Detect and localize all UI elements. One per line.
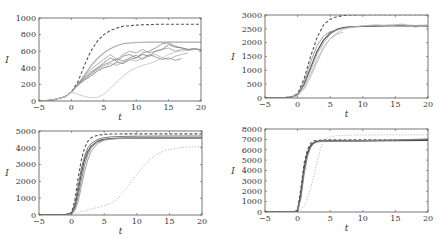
- panel-bottom-right: −505101520010002000300040005000600070008…: [230, 125, 433, 233]
- series-deterministic-dashed: [265, 140, 428, 212]
- y-tick-label: 4000: [16, 144, 36, 153]
- y-tick-label: 1500: [242, 52, 262, 61]
- panel-bottom-left: −505101520010002000300040005000tI: [4, 127, 207, 236]
- x-tick-label: 10: [132, 217, 142, 226]
- x-tick-label: 10: [358, 100, 368, 109]
- series-group: [39, 134, 202, 215]
- y-tick-label: 1000: [242, 197, 262, 206]
- series-ensemble-main: [265, 26, 428, 98]
- x-tick-label: 5: [328, 214, 333, 223]
- x-tick-label: 20: [197, 217, 207, 226]
- y-tick-label: 2000: [16, 177, 36, 186]
- y-axis-label: I: [230, 166, 235, 176]
- y-tick-label: 800: [21, 30, 36, 39]
- series-group: [265, 135, 428, 212]
- y-tick-label: 0: [31, 211, 36, 220]
- x-axis-label: t: [345, 109, 349, 119]
- y-tick-label: 3000: [242, 11, 262, 20]
- y-tick-label: 2500: [242, 25, 262, 34]
- x-tick-label: 5: [101, 103, 106, 112]
- series-sim-late: [39, 50, 188, 101]
- x-tick-label: 15: [390, 214, 400, 223]
- y-axis-label: I: [4, 55, 9, 65]
- panel-top-right: −505101520050010001500200025003000tI: [230, 11, 433, 119]
- series-sim-3: [39, 138, 202, 215]
- y-tick-label: 7000: [242, 135, 262, 144]
- series-sim-2: [265, 32, 343, 98]
- series-sim-5: [39, 55, 182, 102]
- y-tick-label: 400: [21, 64, 36, 73]
- x-tick-label: 0: [295, 214, 300, 223]
- y-tick-label: 6000: [242, 146, 262, 155]
- y-tick-label: 200: [21, 80, 36, 89]
- x-tick-label: 0: [295, 100, 300, 109]
- series-sim-3: [265, 139, 428, 212]
- y-tick-label: 500: [247, 80, 262, 89]
- x-tick-label: 15: [164, 217, 174, 226]
- series-sim-1: [265, 25, 428, 98]
- series-slow-dotted: [265, 135, 428, 212]
- y-tick-label: 1000: [16, 194, 36, 203]
- x-tick-label: 20: [423, 214, 433, 223]
- x-axis-label: t: [118, 112, 122, 122]
- series-deterministic-dashed: [39, 134, 202, 215]
- y-tick-label: 5000: [16, 127, 36, 136]
- x-tick-label: 10: [131, 103, 141, 112]
- y-axis-label: I: [230, 52, 235, 62]
- x-tick-label: 0: [69, 217, 74, 226]
- series-sim-2: [265, 139, 428, 212]
- y-tick-label: 2000: [242, 187, 262, 196]
- x-axis-label: t: [345, 223, 349, 233]
- y-tick-label: 3000: [16, 160, 36, 169]
- x-tick-label: 20: [423, 100, 433, 109]
- x-tick-label: 15: [390, 100, 400, 109]
- y-tick-label: 2000: [242, 38, 262, 47]
- y-tick-label: 0: [257, 208, 262, 217]
- y-tick-label: 8000: [242, 125, 262, 134]
- x-tick-label: 0: [69, 103, 74, 112]
- x-tick-label: 5: [328, 100, 333, 109]
- series-sim-1: [39, 138, 202, 215]
- x-tick-label: 10: [358, 214, 368, 223]
- series-sim-3: [265, 24, 428, 98]
- panel-top-left: −50510152002004006008001000tI: [4, 14, 206, 122]
- y-tick-label: 0: [31, 97, 36, 106]
- series-sim-1: [39, 45, 201, 101]
- figure: −50510152002004006008001000tI −505101520…: [0, 0, 439, 246]
- series-group: [39, 24, 201, 101]
- y-tick-label: 600: [21, 47, 36, 56]
- y-tick-label: 4000: [242, 166, 262, 175]
- x-tick-label: 15: [164, 103, 174, 112]
- series-group: [265, 15, 428, 98]
- y-axis-label: I: [4, 168, 9, 178]
- y-tick-label: 1000: [16, 14, 36, 23]
- y-tick-label: 0: [257, 94, 262, 103]
- series-slow-dotted: [39, 147, 202, 216]
- y-tick-label: 5000: [242, 156, 262, 165]
- series-sim-1: [265, 140, 428, 212]
- y-tick-label: 1000: [242, 66, 262, 75]
- series-sim-2: [39, 138, 202, 215]
- x-tick-label: 20: [196, 103, 206, 112]
- plot-frame: [39, 131, 202, 215]
- x-tick-label: 5: [102, 217, 107, 226]
- x-axis-label: t: [119, 226, 123, 236]
- y-tick-label: 3000: [242, 177, 262, 186]
